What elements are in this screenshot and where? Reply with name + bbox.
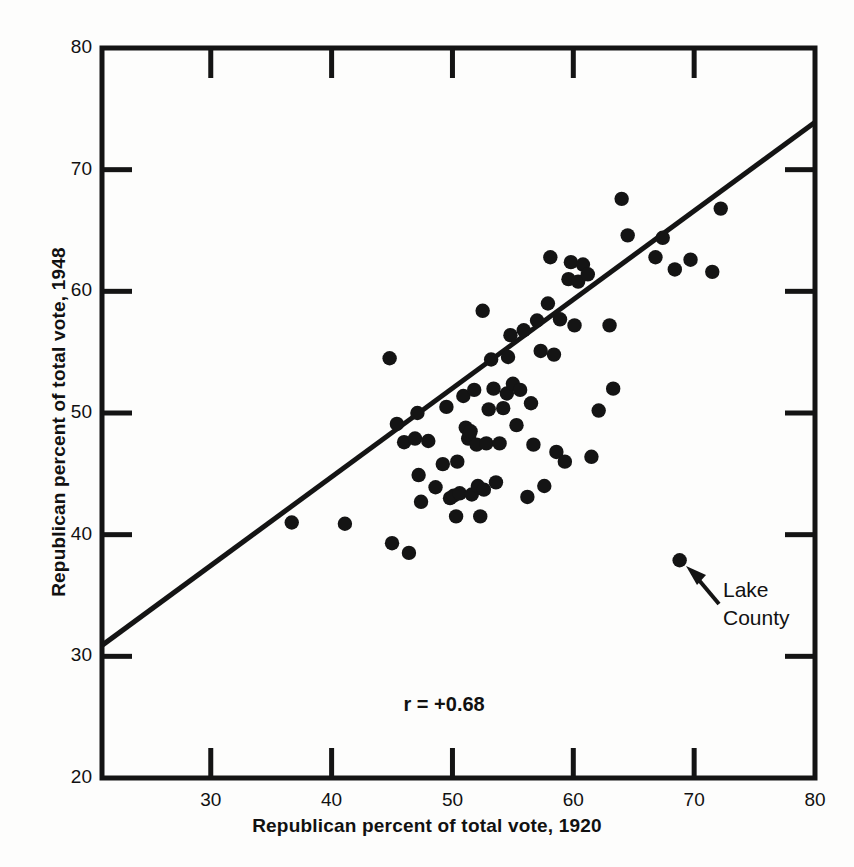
scatter-point xyxy=(541,296,555,310)
scatter-point xyxy=(408,431,422,445)
regression-line-group xyxy=(102,122,815,645)
scatter-point xyxy=(683,253,697,267)
scatter-point xyxy=(517,323,531,337)
lake-county-label-line2: County xyxy=(723,606,790,630)
scatter-point xyxy=(614,192,628,206)
scatter-points-group xyxy=(285,192,728,568)
scatter-point xyxy=(436,457,450,471)
scatter-point xyxy=(484,352,498,366)
scatter-point xyxy=(524,396,538,410)
x-tick-label: 50 xyxy=(422,789,482,811)
scatter-point xyxy=(526,437,540,451)
scatter-point xyxy=(338,517,352,531)
lake-county-arrow-group xyxy=(686,566,719,604)
x-axis-title: Republican percent of total vote, 1920 xyxy=(0,815,854,837)
scatter-point xyxy=(537,479,551,493)
scatter-point xyxy=(492,436,506,450)
scatter-point xyxy=(421,434,435,448)
scatter-point xyxy=(496,401,510,415)
scatter-point xyxy=(584,450,598,464)
axis-ticks xyxy=(102,48,815,778)
scatter-point xyxy=(463,424,477,438)
scatter-point xyxy=(530,313,544,327)
scatter-point xyxy=(501,350,515,364)
scatter-point xyxy=(606,381,620,395)
scatter-point xyxy=(390,417,404,431)
y-tick-label: 30 xyxy=(32,644,92,666)
scatter-point xyxy=(558,454,572,468)
x-tick-label: 70 xyxy=(664,789,724,811)
scatter-point xyxy=(285,515,299,529)
scatter-point xyxy=(547,347,561,361)
scatter-point xyxy=(656,231,670,245)
scatter-point xyxy=(477,482,491,496)
scatter-point xyxy=(567,318,581,332)
scatter-point xyxy=(428,480,442,494)
scatter-point xyxy=(520,490,534,504)
scatter-point xyxy=(486,381,500,395)
y-tick-label: 60 xyxy=(32,279,92,301)
y-tick-label: 20 xyxy=(32,766,92,788)
y-tick-label: 40 xyxy=(32,523,92,545)
scatter-point xyxy=(450,454,464,468)
plot-canvas xyxy=(0,0,854,867)
correlation-annotation: r = +0.68 xyxy=(404,693,485,716)
y-tick-label: 70 xyxy=(32,158,92,180)
scatter-point xyxy=(479,436,493,450)
scatter-point xyxy=(513,383,527,397)
scatter-point xyxy=(402,546,416,560)
axes-frame xyxy=(102,48,815,778)
scatter-point xyxy=(581,267,595,281)
y-tick-label: 80 xyxy=(32,36,92,58)
scatter-point xyxy=(602,318,616,332)
scatter-point xyxy=(648,250,662,264)
scatter-point xyxy=(467,383,481,397)
scatter-point xyxy=(385,536,399,550)
x-tick-label: 80 xyxy=(785,789,845,811)
x-tick-label: 40 xyxy=(302,789,362,811)
scatter-point xyxy=(533,344,547,358)
scatter-point xyxy=(489,475,503,489)
scatter-point xyxy=(620,228,634,242)
lake-county-label-line1: Lake xyxy=(723,578,769,602)
scatter-point xyxy=(473,509,487,523)
plot-border xyxy=(102,48,815,778)
scatter-point xyxy=(414,495,428,509)
scatter-point xyxy=(411,468,425,482)
y-tick-label: 50 xyxy=(32,401,92,423)
scatter-point xyxy=(714,201,728,215)
scatter-point xyxy=(482,402,496,416)
scatter-point xyxy=(672,553,686,567)
x-tick-label: 30 xyxy=(181,789,241,811)
scatter-point xyxy=(439,400,453,414)
scatter-plot-figure: Republican percent of total vote, 1920 R… xyxy=(0,0,854,867)
scatter-point xyxy=(410,406,424,420)
scatter-point xyxy=(543,250,557,264)
scatter-point xyxy=(591,403,605,417)
scatter-point xyxy=(475,304,489,318)
scatter-point xyxy=(553,312,567,326)
x-tick-label: 60 xyxy=(543,789,603,811)
scatter-point xyxy=(503,328,517,342)
scatter-point xyxy=(449,509,463,523)
scatter-point xyxy=(668,262,682,276)
regression-line xyxy=(102,122,815,645)
scatter-point xyxy=(564,255,578,269)
scatter-point xyxy=(509,418,523,432)
scatter-point xyxy=(382,351,396,365)
scatter-point xyxy=(705,265,719,279)
